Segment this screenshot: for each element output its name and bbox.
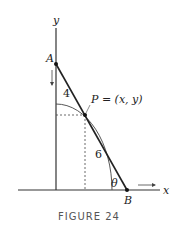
- right-arrow-icon: [138, 183, 156, 187]
- point-A: [54, 62, 58, 66]
- label-P: P = (x, y): [90, 93, 143, 106]
- segment-AB: [56, 64, 127, 190]
- figure-diagram: y x A B P = (x, y) 4 6 θ FIGURE 24: [0, 0, 179, 233]
- point-B: [125, 188, 129, 192]
- segment-label-4: 4: [63, 87, 70, 100]
- y-axis-label: y: [52, 14, 60, 27]
- x-axis-label: x: [163, 184, 170, 197]
- down-arrow-icon: [50, 70, 54, 86]
- label-P-leader: [86, 105, 90, 113]
- label-A: A: [45, 52, 54, 65]
- label-B: B: [123, 194, 132, 207]
- point-P: [83, 113, 87, 117]
- angle-theta-label: θ: [111, 177, 118, 190]
- segment-label-6: 6: [95, 148, 102, 161]
- figure-caption: FIGURE 24: [58, 211, 120, 222]
